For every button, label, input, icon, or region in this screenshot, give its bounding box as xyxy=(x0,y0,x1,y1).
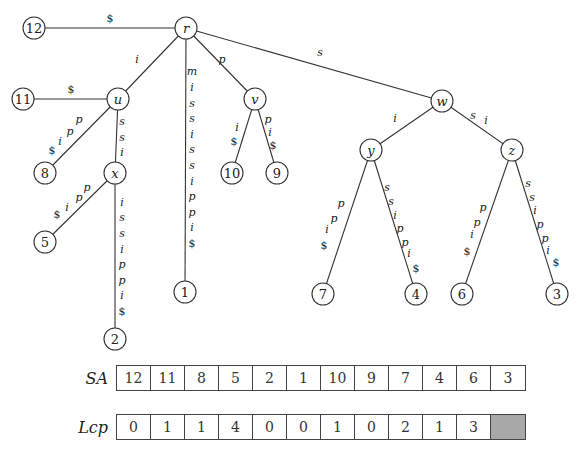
edge-label-char: i xyxy=(190,221,194,234)
leaf-node-4: 4 xyxy=(405,283,427,305)
node-label: 9 xyxy=(273,166,281,181)
edge-label-char: i xyxy=(533,204,537,217)
edge-z-l3 xyxy=(512,150,557,294)
lcp-cell: 1 xyxy=(423,415,457,439)
node-label: 12 xyxy=(26,21,43,36)
sa-cell: 6 xyxy=(457,366,491,390)
lcp-cell xyxy=(491,415,525,439)
node-label: 4 xyxy=(412,287,420,302)
edge-label-char: s xyxy=(189,143,195,156)
sa-cell: 7 xyxy=(389,366,423,390)
lcp-cell: 3 xyxy=(457,415,491,439)
lcp-cell: 4 xyxy=(219,415,253,439)
node-label: 3 xyxy=(553,287,561,302)
edge-label-char: $ xyxy=(553,256,560,269)
edge-label-char: p xyxy=(330,212,337,225)
leaf-node-5: 5 xyxy=(34,231,56,253)
internal-node-v: v xyxy=(244,88,266,110)
edge-label-char: s xyxy=(189,97,195,110)
edge-label-char: i xyxy=(120,196,124,209)
edge-label-char: p xyxy=(75,113,82,126)
node-label: 5 xyxy=(41,235,49,250)
edge-v-l9 xyxy=(255,99,277,173)
edge-label-char: p xyxy=(83,181,90,194)
lcp-array-row: Lcp 01140010213 xyxy=(58,414,526,440)
leaf-node-9: 9 xyxy=(266,162,288,184)
leaf-node-7: 7 xyxy=(312,283,334,305)
leaf-node-12: 12 xyxy=(23,17,45,39)
edge-label-char: i xyxy=(58,135,62,148)
sa-cell: 5 xyxy=(219,366,253,390)
edge-label-char: p xyxy=(75,191,82,204)
edge-w-y xyxy=(371,101,442,150)
edge-label-char: p xyxy=(188,206,195,219)
edge-label-char: p xyxy=(218,53,225,66)
leaf-node-3: 3 xyxy=(546,283,568,305)
edge-labels: $imississippi$ps$ppi$ssippi$issippi$i$pi… xyxy=(49,12,560,318)
edge-label-char: i xyxy=(135,53,139,66)
lcp-array-label: Lcp xyxy=(58,418,116,437)
tree-edges xyxy=(23,28,557,339)
node-label: 2 xyxy=(111,332,119,347)
edge-label-char: p xyxy=(337,197,344,210)
edge-label-char: p xyxy=(479,201,486,214)
edge-label-char: $ xyxy=(49,144,56,157)
edge-label-char: s xyxy=(388,195,394,208)
edge-label-char: m xyxy=(187,65,197,78)
lcp-cell: 0 xyxy=(287,415,321,439)
suffix-array-label: SA xyxy=(58,369,116,388)
edge-label-char: p xyxy=(118,274,125,287)
edge-label-char: i xyxy=(120,146,124,159)
edge-u-l8 xyxy=(45,99,118,173)
edge-label-char: i xyxy=(325,223,329,236)
edge-label-char: s xyxy=(384,181,390,194)
internal-node-w: w xyxy=(431,90,453,112)
node-label: 1 xyxy=(181,285,189,300)
edge-label-char: i xyxy=(268,126,272,139)
sa-cell: 11 xyxy=(151,366,185,390)
edge-label-char: s xyxy=(317,46,323,59)
node-label: u xyxy=(114,92,122,107)
edge-label-char: s xyxy=(189,112,195,125)
suffix-tree: $imississippi$ps$ppi$ssippi$issippi$i$pi… xyxy=(0,0,582,360)
edge-label-char: s xyxy=(119,227,125,240)
lcp-cell: 0 xyxy=(355,415,389,439)
edge-y-l4 xyxy=(371,150,416,294)
edge-label-char: i xyxy=(190,175,194,188)
edge-label-char: s xyxy=(529,191,535,204)
edge-label-char: $ xyxy=(54,208,61,221)
internal-node-y: y xyxy=(360,139,382,161)
leaf-node-10: 10 xyxy=(221,162,243,184)
edge-label-char: $ xyxy=(189,237,196,250)
edge-label-char: p xyxy=(118,258,125,271)
node-label: w xyxy=(436,94,447,109)
tree-nodes: r12u118x521v109wyz7463 xyxy=(12,17,568,350)
node-label: 11 xyxy=(15,92,32,107)
sa-cell: 3 xyxy=(491,366,525,390)
edge-label-char: $ xyxy=(321,239,328,252)
leaf-node-6: 6 xyxy=(451,283,473,305)
internal-node-u: u xyxy=(107,88,129,110)
edge-label-char: i xyxy=(484,114,488,127)
internal-node-r: r xyxy=(175,17,197,39)
edge-label-char: $ xyxy=(464,245,471,258)
node-label: 10 xyxy=(224,166,241,181)
internal-node-z: z xyxy=(501,139,523,161)
node-label: 7 xyxy=(319,287,327,302)
edge-label-char: s xyxy=(119,211,125,224)
leaf-node-1: 1 xyxy=(174,281,196,303)
edge-label-char: i xyxy=(65,201,69,214)
edge-w-z xyxy=(442,101,512,150)
lcp-cell: 1 xyxy=(151,415,185,439)
sa-cell: 8 xyxy=(185,366,219,390)
lcp-cell: 1 xyxy=(321,415,355,439)
sa-cell: 2 xyxy=(253,366,287,390)
edge-label-char: p xyxy=(188,190,195,203)
node-label: z xyxy=(508,143,516,158)
lcp-array-cells: 01140010213 xyxy=(116,414,526,440)
suffix-array-row: SA 121185211097463 xyxy=(58,365,526,391)
lcp-cell: 0 xyxy=(253,415,287,439)
node-label: 6 xyxy=(458,287,466,302)
edge-label-char: s xyxy=(189,159,195,172)
edge-label-char: s xyxy=(119,131,125,144)
